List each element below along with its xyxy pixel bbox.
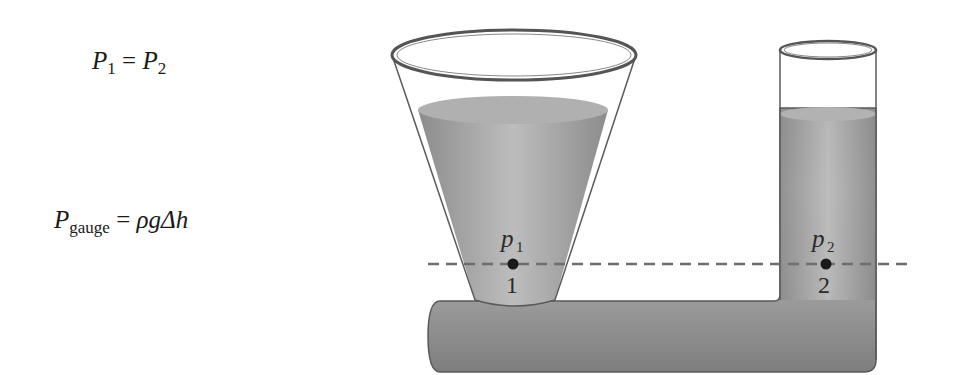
right-column-fluid-surface bbox=[780, 107, 876, 121]
point-1-number: 1 bbox=[506, 272, 518, 298]
point-2-pressure-label: p bbox=[810, 225, 825, 252]
right-column-rim bbox=[780, 41, 876, 59]
funnel-fluid-surface bbox=[418, 96, 608, 124]
point-2-pressure-sub: 2 bbox=[827, 239, 835, 255]
point-1-pressure-sub: 1 bbox=[516, 239, 524, 255]
point-1-pressure-label: p bbox=[499, 225, 514, 252]
point-1-marker bbox=[508, 259, 519, 270]
connected-vessels-diagram: p 1 1 p 2 2 bbox=[0, 0, 963, 375]
point-2-number: 2 bbox=[818, 272, 830, 298]
funnel-rim bbox=[392, 30, 636, 80]
point-2-marker bbox=[821, 259, 832, 270]
